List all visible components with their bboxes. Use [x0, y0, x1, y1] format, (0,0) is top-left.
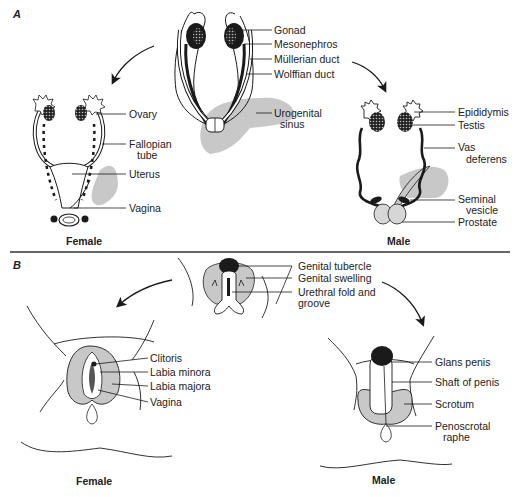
panel-b-letter: B: [13, 259, 21, 271]
label-testis: Testis: [458, 120, 485, 131]
label-deferens: deferens: [466, 154, 507, 165]
label-labia-majora: Labia majora: [150, 381, 211, 392]
caption-female-b: Female: [76, 475, 112, 487]
caption-female-a: Female: [66, 235, 102, 247]
arrow-to-male-b: [382, 282, 422, 322]
panel-a-letter: A: [13, 8, 21, 20]
label-vagina-a: Vagina: [129, 203, 161, 214]
caption-male-b: Male: [372, 474, 395, 486]
label-glans-penis: Glans penis: [435, 357, 490, 368]
male-external-genitalia: [320, 336, 452, 468]
arrow-to-female-a: [114, 46, 154, 80]
label-genital-swelling: Genital swelling: [298, 273, 372, 284]
arrow-to-male-a: [352, 62, 384, 88]
arrow-to-female-b: [120, 280, 172, 304]
label-uterus: Uterus: [129, 169, 160, 180]
female-internal-organs: [33, 95, 126, 226]
label-prostate: Prostate: [458, 217, 497, 228]
label-clitoris: Clitoris: [150, 353, 182, 364]
label-wolffian-duct: Wolffian duct: [274, 69, 334, 80]
label-mesonephros: Mesonephros: [274, 39, 338, 50]
label-epididymis: Epididymis: [458, 107, 509, 118]
label-labia-minora: Labia minora: [150, 367, 211, 378]
label-gonad: Gonad: [274, 25, 306, 36]
label-mullerian-duct: Müllerian duct: [274, 54, 339, 65]
male-internal-organs: [357, 100, 455, 224]
label-scrotum: Scrotum: [435, 399, 474, 410]
label-groove: groove: [298, 298, 330, 309]
label-shaft-of-penis: Shaft of penis: [435, 377, 499, 388]
label-genital-tubercle: Genital tubercle: [298, 261, 372, 272]
panel-b-indifferent-stage: [178, 258, 292, 318]
label-raphe: raphe: [443, 432, 470, 443]
label-sinus: sinus: [280, 119, 305, 130]
caption-male-a: Male: [387, 235, 410, 247]
label-vesicle: vesicle: [466, 205, 498, 216]
label-tube: tube: [137, 150, 157, 161]
label-vas: Vas: [458, 142, 475, 153]
label-vagina-b: Vagina: [150, 397, 182, 408]
label-ovary: Ovary: [129, 109, 157, 120]
